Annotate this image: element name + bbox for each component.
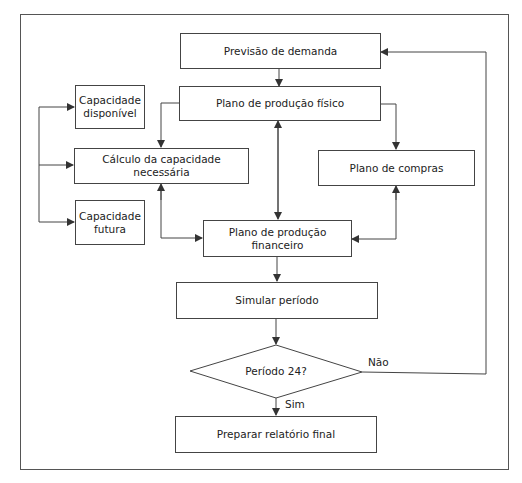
- node-label: Simular período: [235, 294, 318, 307]
- edge-label-sim: Sim: [285, 398, 305, 410]
- node-capacidade-futura: Capacidade futura: [75, 200, 145, 245]
- node-label: Capacidade futura: [79, 210, 141, 236]
- node-plano-producao-financeiro: Plano de produção financeiro: [203, 220, 352, 257]
- node-label: Plano de produção físico: [216, 97, 344, 110]
- node-previsao-demanda: Previsão de demanda: [180, 33, 381, 69]
- node-preparar-relatorio: Preparar relatório final: [175, 416, 377, 453]
- node-label: Plano de produção financeiro: [222, 226, 333, 252]
- node-label: Cálculo da capacidade necessária: [75, 153, 248, 179]
- node-label: Preparar relatório final: [217, 428, 335, 441]
- node-label: Previsão de demanda: [224, 45, 338, 58]
- node-calculo-capacidade: Cálculo da capacidade necessária: [74, 148, 249, 184]
- node-plano-producao-fisico: Plano de produção físico: [179, 86, 381, 121]
- decision-periodo-24: Período 24?: [216, 365, 336, 377]
- edge-label-nao: Não: [368, 356, 389, 368]
- node-label: Capacidade disponível: [79, 94, 141, 120]
- node-plano-compras: Plano de compras: [318, 150, 475, 186]
- node-simular-periodo: Simular período: [176, 282, 378, 319]
- node-capacidade-disponivel: Capacidade disponível: [75, 85, 145, 129]
- node-label: Plano de compras: [350, 162, 444, 175]
